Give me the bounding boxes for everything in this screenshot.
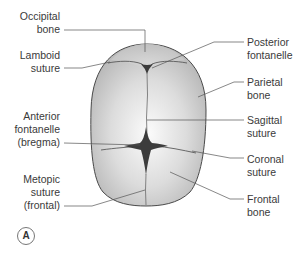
label-text: Sagittal xyxy=(247,114,282,127)
panel-label-badge: A xyxy=(17,227,35,245)
label-text: Occipital xyxy=(20,10,60,23)
label-text: fontanelle xyxy=(247,49,293,62)
label-text: suture xyxy=(20,62,60,75)
label-text: (frontal) xyxy=(23,199,60,212)
label-metopic-suture: Metopic suture (frontal) xyxy=(23,173,60,212)
label-text: suture xyxy=(247,127,282,140)
label-text: bone xyxy=(247,89,283,102)
label-text: Lamboid xyxy=(20,49,60,62)
label-text: fontanelle xyxy=(14,123,60,136)
label-anterior-fontanelle: Anterior fontanelle (bregma) xyxy=(14,110,60,149)
label-text: Anterior xyxy=(14,110,60,123)
label-text: suture xyxy=(23,186,60,199)
label-posterior-fontanelle: Posterior fontanelle xyxy=(247,36,293,62)
label-coronal-suture: Coronal suture xyxy=(247,153,284,179)
label-sagittal-suture: Sagittal suture xyxy=(247,114,282,140)
label-text: Parietal xyxy=(247,76,283,89)
label-frontal-bone: Frontal bone xyxy=(247,193,280,219)
label-parietal-bone: Parietal bone xyxy=(247,76,283,102)
label-lamboid-suture: Lamboid suture xyxy=(20,49,60,75)
label-text: (bregma) xyxy=(14,136,60,149)
label-text: Coronal xyxy=(247,153,284,166)
label-text: suture xyxy=(247,166,284,179)
label-text: Posterior xyxy=(247,36,293,49)
label-occipital-bone: Occipital bone xyxy=(20,10,60,36)
label-text: Metopic xyxy=(23,173,60,186)
label-text: bone xyxy=(247,206,280,219)
label-text: bone xyxy=(20,23,60,36)
label-text: Frontal xyxy=(247,193,280,206)
